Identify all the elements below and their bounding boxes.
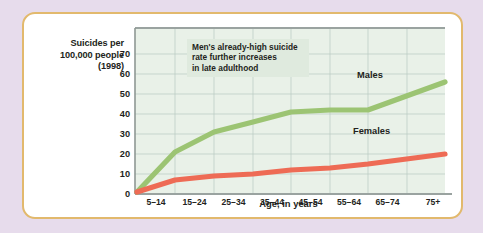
annotation-line-3: in late adulthood <box>192 63 305 73</box>
x-axis-title: Age, in years <box>132 198 445 209</box>
series-label-males: Males <box>357 70 383 80</box>
annotation-males-late-adulthood: Men's already-high suicide rate further … <box>187 39 309 77</box>
series-label-females: Females <box>353 126 390 136</box>
figure-card: Suicides per 100,000 people (1998) 70 60… <box>22 12 463 219</box>
chart-area: Suicides per 100,000 people (1998) 70 60… <box>24 14 465 221</box>
annotation-line-2: rate further increases <box>192 52 305 62</box>
annotation-line-1: Men's already-high suicide <box>192 42 305 52</box>
